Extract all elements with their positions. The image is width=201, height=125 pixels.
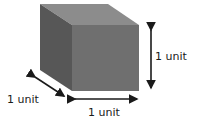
width-label: 1 unit <box>88 107 120 118</box>
cube-front-face <box>72 25 139 91</box>
depth-label: 1 unit <box>7 94 39 105</box>
cube <box>40 4 139 91</box>
height-label: 1 unit <box>155 51 187 62</box>
